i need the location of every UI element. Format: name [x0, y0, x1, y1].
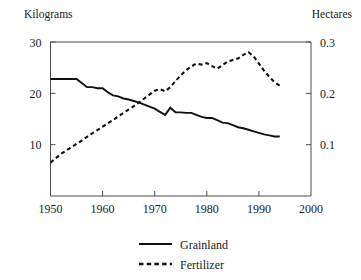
plot-frame [51, 42, 312, 196]
chart-legend: GrainlandFertilizer [139, 238, 228, 272]
left-axis-ticks: 102030 [30, 36, 56, 153]
legend-label-fertilizer: Fertilizer [180, 258, 224, 272]
x-tick-label: 1990 [247, 202, 271, 216]
line-chart: Kilograms Hectares 102030 0.10.20.3 1950… [0, 0, 361, 280]
x-tick-label: 1970 [143, 202, 167, 216]
right-axis-title: Hectares [312, 8, 353, 20]
x-tick-label: 1980 [195, 202, 219, 216]
right-tick-label: 0.3 [320, 36, 335, 50]
series-line-fertilizer [51, 52, 280, 162]
left-tick-label: 30 [30, 36, 42, 50]
series-group [51, 52, 280, 162]
left-tick-label: 20 [30, 87, 42, 101]
right-tick-label: 0.1 [320, 138, 335, 152]
series-line-grainland [51, 79, 280, 136]
x-axis-ticks: 195019601970198019902000 [39, 191, 324, 216]
left-tick-label: 10 [30, 138, 42, 152]
x-tick-label: 1960 [91, 202, 115, 216]
right-tick-label: 0.2 [320, 87, 335, 101]
chart-container: Kilograms Hectares 102030 0.10.20.3 1950… [0, 0, 361, 280]
x-tick-label: 2000 [299, 202, 323, 216]
x-tick-label: 1950 [39, 202, 63, 216]
legend-label-grainland: Grainland [180, 238, 228, 252]
left-axis-title: Kilograms [24, 8, 73, 21]
right-axis-ticks: 0.10.20.3 [306, 36, 335, 153]
